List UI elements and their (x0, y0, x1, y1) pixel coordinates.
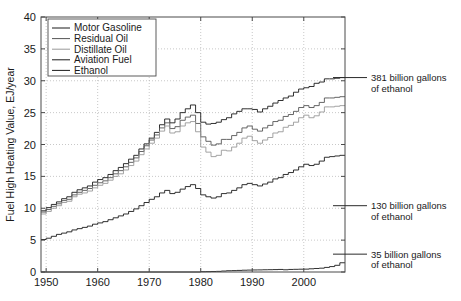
y-tick-label: 40 (24, 11, 36, 23)
legend-label-motor-gasoline: Motor Gasoline (74, 22, 142, 33)
x-tick-label: 2000 (292, 276, 316, 288)
x-tick-label: 1970 (137, 276, 161, 288)
y-tick-label: 10 (24, 202, 36, 214)
annotation-text-line1-1: 130 billion gallons (371, 200, 447, 211)
y-axis-label: Fuel High Heating Value, EJ/year (4, 67, 16, 222)
fuel-heating-value-chart: 0510152025303540195019601970198019902000… (0, 0, 461, 301)
figure-container: 0510152025303540195019601970198019902000… (0, 0, 461, 301)
annotation-text-line1-2: 35 billion gallons (371, 249, 441, 260)
y-axis-title: Fuel High Heating Value, EJ/year (4, 67, 16, 222)
y-tick-label: 15 (24, 170, 36, 182)
y-tick-label: 35 (24, 43, 36, 55)
x-tick-label: 1990 (240, 276, 264, 288)
chart-legend: Motor GasolineResidual OilDistillate Oil… (48, 19, 156, 76)
y-tick-label: 30 (24, 75, 36, 87)
annotation-text-line2-0: of ethanol (371, 83, 413, 94)
y-tick-label: 5 (30, 234, 36, 246)
legend-label-aviation-fuel: Aviation Fuel (74, 54, 132, 65)
y-tick-label: 25 (24, 107, 36, 119)
y-tick-label: 20 (24, 139, 36, 151)
annotation-text-line2-1: of ethanol (371, 211, 413, 222)
annotation-text-line1-0: 381 billion gallons (371, 72, 447, 83)
x-tick-label: 1980 (188, 276, 212, 288)
legend-label-residual-oil: Residual Oil (74, 33, 128, 44)
x-tick-label: 1960 (85, 276, 109, 288)
x-tick-label: 1950 (34, 276, 58, 288)
legend-label-ethanol: Ethanol (74, 65, 108, 76)
legend-label-distillate-oil: Distillate Oil (74, 44, 127, 55)
annotation-text-line2-2: of ethanol (371, 259, 413, 270)
